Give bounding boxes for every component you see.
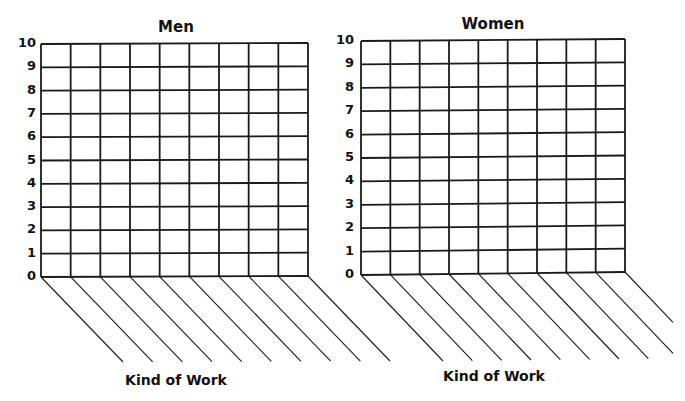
women-gridline-h: [361, 39, 625, 41]
y-tick-label: 9: [12, 58, 36, 73]
y-tick-label: 8: [330, 79, 354, 94]
women-category-line: [420, 274, 502, 360]
women-gridline-h: [361, 156, 625, 159]
women-gridline-h: [361, 225, 625, 228]
women-chart-title: Women: [462, 15, 525, 33]
y-tick-label: 3: [12, 198, 36, 213]
women-gridline-h: [361, 132, 625, 134]
men-gridline-h: [41, 160, 308, 161]
men-category-line: [278, 276, 360, 361]
men-gridline-h: [41, 66, 308, 67]
men-category-line: [189, 276, 271, 361]
men-gridline-h: [41, 183, 308, 184]
men-category-line: [219, 276, 301, 361]
y-tick-label: 9: [330, 55, 354, 70]
women-category-line: [478, 274, 560, 360]
women-category-line: [508, 273, 590, 359]
women-gridline-h: [361, 109, 625, 111]
y-tick-label: 0: [12, 268, 36, 283]
women-category-line: [625, 272, 673, 322]
men-gridline-h: [41, 136, 308, 137]
men-category-line: [249, 276, 331, 361]
y-tick-label: 4: [12, 175, 36, 190]
women-category-line: [537, 273, 619, 359]
women-gridline-h: [361, 86, 625, 88]
y-tick-label: 1: [12, 245, 36, 260]
women-gridline-h: [361, 272, 625, 275]
men-gridline-h: [41, 113, 308, 114]
women-gridline-h: [361, 179, 625, 182]
y-tick-label: 7: [12, 105, 36, 120]
y-tick-label: 5: [12, 152, 36, 167]
women-category-line: [596, 272, 673, 353]
men-category-line: [308, 276, 390, 361]
men-gridline-h: [41, 229, 308, 230]
y-tick-label: 10: [12, 35, 36, 50]
women-gridline-h: [361, 202, 625, 205]
men-category-line: [41, 277, 123, 362]
women-category-line: [449, 274, 531, 360]
y-tick-label: 4: [330, 172, 354, 187]
men-x-axis-label: Kind of Work: [125, 372, 227, 388]
y-tick-label: 5: [330, 149, 354, 164]
y-tick-label: 0: [330, 266, 354, 281]
women-category-line: [390, 275, 472, 361]
men-gridline-h: [41, 253, 308, 254]
men-category-line: [160, 277, 242, 362]
men-category-line: [130, 277, 212, 362]
y-tick-label: 2: [330, 219, 354, 234]
y-tick-label: 7: [330, 102, 354, 117]
men-category-line: [100, 277, 182, 362]
men-chart-title: Men: [158, 18, 194, 36]
women-category-line: [566, 273, 648, 359]
y-tick-label: 8: [12, 82, 36, 97]
women-category-line: [361, 275, 443, 361]
men-gridline-h: [41, 90, 308, 91]
men-gridline-h: [41, 276, 308, 277]
y-tick-label: 1: [330, 243, 354, 258]
women-gridline-h: [361, 62, 625, 64]
y-tick-label: 2: [12, 221, 36, 236]
y-tick-label: 3: [330, 196, 354, 211]
men-category-line: [71, 277, 153, 362]
women-x-axis-label: Kind of Work: [443, 368, 545, 384]
y-tick-label: 6: [12, 128, 36, 143]
worksheet: Men Kind of Work 012345678910 Women Kind…: [0, 0, 685, 401]
women-gridline-h: [361, 249, 625, 252]
men-gridline-h: [41, 206, 308, 207]
y-tick-label: 10: [330, 32, 354, 47]
men-gridline-h: [41, 43, 308, 44]
y-tick-label: 6: [330, 126, 354, 141]
